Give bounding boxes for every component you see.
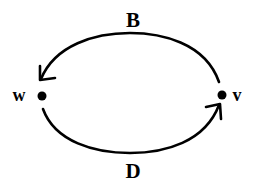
node-v-label: v xyxy=(233,86,242,104)
edge-d-label: D xyxy=(125,161,140,182)
node-v-dot xyxy=(218,91,227,100)
edge-b-arc xyxy=(41,33,219,82)
node-w-label: w xyxy=(13,86,26,104)
edge-d-arc xyxy=(43,105,219,153)
node-w-dot xyxy=(38,92,47,101)
edge-b-label: B xyxy=(126,10,140,31)
diagram-canvas: B D w v xyxy=(0,0,255,190)
